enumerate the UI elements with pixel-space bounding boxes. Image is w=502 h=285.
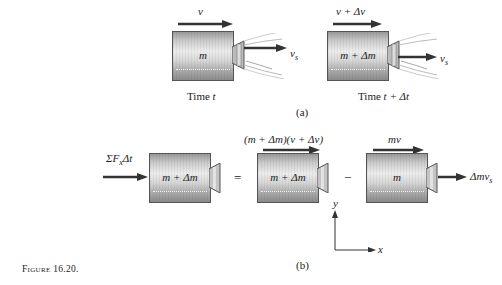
rocket-body-a-left: m: [172, 31, 234, 81]
equals-sign: =: [234, 170, 241, 186]
part-a-label: (a): [296, 106, 308, 118]
vs-subscript: s: [445, 58, 448, 67]
minus-sign: −: [344, 170, 351, 186]
mass-label: m: [173, 49, 233, 61]
time-label-a-left: Time t: [187, 90, 216, 102]
rocket-body-b-3: m: [366, 153, 428, 203]
exhaust-velocity-arrow: [398, 52, 438, 62]
exhaust-velocity-arrow: [244, 43, 288, 53]
sum-force: ΣF: [106, 152, 119, 164]
nozzle-icon: [317, 163, 329, 193]
coordinate-axes: [330, 210, 380, 252]
mass-label: m + Δm: [328, 49, 388, 61]
momentum-label-body2: (m + Δm)(v + Δv): [244, 133, 323, 145]
momentum-label-body3: mv: [388, 133, 401, 145]
dmv-symbol: Δmv: [470, 170, 489, 182]
part-b-label: (b): [296, 259, 309, 271]
impulse-arrow: [103, 172, 149, 182]
velocity-arrow-v: [178, 19, 234, 29]
vs-subscript: s: [295, 53, 298, 62]
time-prefix: Time: [187, 90, 213, 102]
rocket-body-b-2: m + Δm: [257, 153, 319, 203]
velocity-label-a-right: v + Δv: [336, 5, 365, 17]
velocity-arrow-v-plus-dv: [333, 19, 383, 29]
rocket-body-b-1: m + Δm: [149, 153, 211, 203]
axis-y-label: y: [333, 197, 338, 209]
dt: Δt: [123, 152, 133, 164]
nozzle-exhaust-icon: [232, 33, 292, 79]
axis-x-label: x: [378, 243, 383, 255]
nozzle-icon: [209, 163, 221, 193]
rocket-body-a-right: m + Δm: [327, 31, 389, 81]
mass-label: m + Δm: [150, 171, 210, 183]
time-var: t: [213, 90, 216, 102]
nozzle-icon: [426, 163, 438, 193]
figure-caption: Figure 16.20.: [22, 264, 79, 274]
time-prefix: Time: [358, 90, 384, 102]
mass-label: m + Δm: [258, 171, 318, 183]
s-subscript: s: [489, 176, 492, 185]
mass-label: m: [367, 171, 427, 183]
exhaust-velocity-label: vs: [290, 47, 298, 62]
exhaust-momentum-label: Δmvs: [470, 170, 492, 185]
time-label-a-right: Time t + Δt: [358, 90, 409, 102]
exhaust-momentum-arrow: [438, 172, 468, 182]
time-var: t + Δt: [384, 90, 410, 102]
velocity-label-a-left: v: [198, 5, 203, 17]
exhaust-velocity-label: vs: [440, 52, 448, 67]
impulse-label: ΣFxΔt: [106, 152, 132, 167]
